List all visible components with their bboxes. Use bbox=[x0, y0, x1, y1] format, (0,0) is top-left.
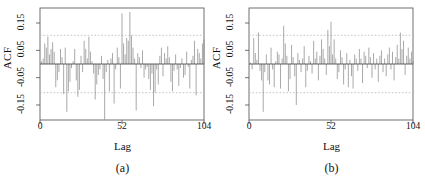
panel-b-xlabel: Lag bbox=[249, 140, 414, 152]
panel-b-ylabel: ACF bbox=[210, 33, 222, 83]
panel-b: ACF Lag (b) 0.150.05-0.05-0.15052104 bbox=[209, 0, 418, 184]
panel-a: ACF Lag (a) 0.150.05-0.05-0.15052104 bbox=[0, 0, 209, 184]
panel-b-plot bbox=[209, 0, 418, 184]
x-tick-label: 0 bbox=[25, 121, 55, 131]
y-tick-label: 0.05 bbox=[225, 36, 235, 62]
x-tick-label: 0 bbox=[234, 121, 264, 131]
y-tick-label: -0.05 bbox=[225, 64, 235, 90]
panel-a-ylabel: ACF bbox=[1, 33, 13, 83]
panel-a-caption: (a) bbox=[40, 161, 205, 176]
x-tick-label: 104 bbox=[398, 121, 425, 131]
y-tick-label: 0.15 bbox=[16, 9, 26, 35]
panel-a-plot bbox=[0, 0, 209, 184]
y-tick-label: -0.05 bbox=[16, 64, 26, 90]
y-tick-label: -0.15 bbox=[225, 91, 235, 117]
panel-b-caption: (b) bbox=[249, 161, 414, 176]
y-tick-label: -0.15 bbox=[16, 91, 26, 117]
x-tick-label: 52 bbox=[107, 121, 137, 131]
x-tick-label: 52 bbox=[316, 121, 346, 131]
y-tick-label: 0.05 bbox=[16, 36, 26, 62]
panel-a-xlabel: Lag bbox=[40, 140, 205, 152]
y-tick-label: 0.15 bbox=[225, 9, 235, 35]
